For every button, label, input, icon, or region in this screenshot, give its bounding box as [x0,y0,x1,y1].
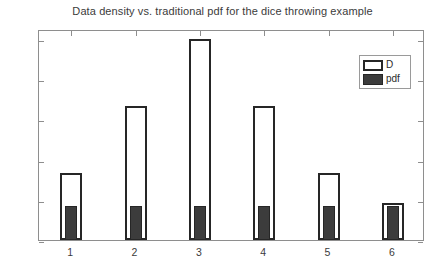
legend-label-d: D [386,60,393,70]
chart-title: Data density vs. traditional pdf for the… [0,5,445,17]
y-axis-tick [39,81,44,82]
x-axis-tick-label: 3 [184,246,214,258]
y-axis-tick-right [418,81,423,82]
chart-figure: Data density vs. traditional pdf for the… [0,0,445,267]
legend-swatch-pdf [363,74,383,85]
x-axis-tick-top [200,31,201,36]
x-axis-tick-top [71,31,72,36]
y-axis-tick [39,202,44,203]
x-axis-tick-label: 5 [313,246,343,258]
y-axis-tick-right [418,242,423,243]
legend-swatch-d [363,60,383,71]
x-axis-tick-label: 1 [55,246,85,258]
y-axis-tick [39,121,44,122]
x-axis-tick-top [264,31,265,36]
x-axis-tick-label: 6 [377,246,407,258]
bar-series-pdf [387,206,399,240]
y-axis-tick-right [418,121,423,122]
chart-legend: Dpdf [359,55,411,89]
bar-series-pdf [130,206,142,240]
x-axis-tick-top [329,31,330,36]
y-axis-tick [39,41,44,42]
bar-series-pdf [258,206,270,240]
x-axis-tick-top [136,31,137,36]
y-axis-tick [39,242,44,243]
bar-series-pdf [194,206,206,240]
y-axis-tick-right [418,41,423,42]
y-axis-tick-right [418,162,423,163]
y-axis-tick [39,162,44,163]
x-axis-tick-top [393,31,394,36]
bar-series-pdf [65,206,77,240]
legend-item-pdf: pdf [363,72,407,86]
legend-item-d: D [363,58,407,72]
x-axis-tick-label: 2 [120,246,150,258]
bar-series-pdf [323,206,335,240]
legend-label-pdf: pdf [386,74,400,84]
y-axis-tick-right [418,202,423,203]
x-axis-tick-label: 4 [248,246,278,258]
